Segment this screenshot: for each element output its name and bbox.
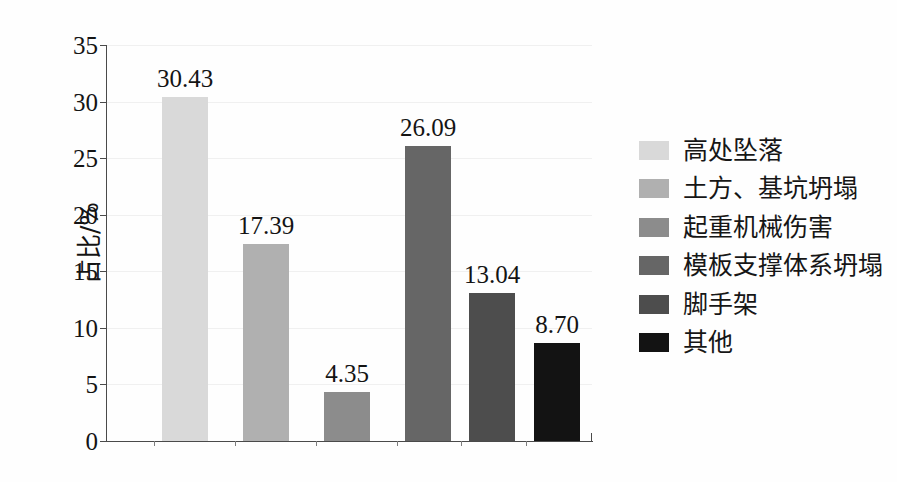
- bar-value-label: 4.35: [325, 361, 369, 386]
- legend-item-3[interactable]: 起重机械伤害: [639, 208, 889, 247]
- bar-value-label: 13.04: [464, 262, 520, 287]
- legend-swatch-icon: [639, 256, 669, 275]
- bar-value-label: 26.09: [400, 115, 456, 140]
- legend-swatch-icon: [639, 333, 669, 352]
- legend-swatch-icon: [639, 295, 669, 314]
- legend-item-label: 其他: [683, 330, 733, 355]
- y-tick-label: 10: [73, 315, 107, 340]
- y-tick-label: 5: [86, 372, 108, 397]
- x-tick-mark: [461, 441, 462, 446]
- y-tick-label: 25: [73, 146, 107, 171]
- legend-item-1[interactable]: 高处坠落: [639, 131, 889, 170]
- y-tick-label: 35: [73, 33, 107, 58]
- bar-1[interactable]: 30.43: [162, 97, 208, 441]
- legend-swatch-icon: [639, 218, 669, 237]
- x-tick-mark: [154, 441, 155, 446]
- bar-3[interactable]: 4.35: [324, 392, 370, 441]
- x-tick-mark: [397, 441, 398, 446]
- legend-item-label: 高处坠落: [683, 138, 783, 163]
- y-axis-title: 占比/%: [77, 202, 102, 284]
- bar-5[interactable]: 13.04: [469, 293, 515, 441]
- legend-item-5[interactable]: 脚手架: [639, 285, 889, 324]
- plot-area: 05101520253035 30.4317.394.3526.0913.048…: [107, 45, 592, 441]
- legend-item-label: 模板支撑体系坍塌: [683, 253, 883, 278]
- legend-item-4[interactable]: 模板支撑体系坍塌: [639, 247, 889, 286]
- bar-value-label: 30.43: [157, 66, 213, 91]
- bar-4[interactable]: 26.09: [405, 146, 451, 441]
- legend-swatch-icon: [639, 179, 669, 198]
- bar-value-label: 8.70: [535, 312, 579, 337]
- legend-item-6[interactable]: 其他: [639, 324, 889, 363]
- x-tick-mark: [316, 441, 317, 446]
- bar-2[interactable]: 17.39: [243, 244, 289, 441]
- bar-6[interactable]: 8.70: [534, 343, 580, 441]
- y-tick-label: 30: [73, 89, 107, 114]
- gridline: [107, 45, 592, 46]
- legend-item-label: 土方、基坑坍塌: [683, 176, 858, 201]
- x-tick-mark: [235, 441, 236, 446]
- x-tick-mark: [526, 441, 527, 446]
- legend-swatch-icon: [639, 141, 669, 160]
- legend-item-label: 脚手架: [683, 292, 758, 317]
- chart-legend: 高处坠落土方、基坑坍塌起重机械伤害模板支撑体系坍塌脚手架其他: [639, 131, 889, 362]
- y-tick-label: 0: [86, 429, 108, 454]
- legend-item-label: 起重机械伤害: [683, 215, 833, 240]
- bar-chart-figure: 05101520253035 30.4317.394.3526.0913.048…: [0, 0, 897, 482]
- legend-item-2[interactable]: 土方、基坑坍塌: [639, 170, 889, 209]
- bar-value-label: 17.39: [238, 213, 294, 238]
